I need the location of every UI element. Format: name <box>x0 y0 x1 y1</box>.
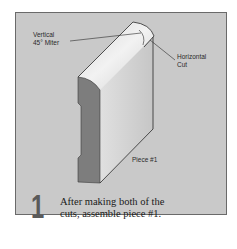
leader-horizontal-cut <box>150 40 175 60</box>
step-instruction: After making both of the cuts, assemble … <box>60 196 220 220</box>
callout-vertical-miter: Vertical 45° Miter <box>33 31 59 46</box>
molding-profile-end <box>78 77 100 183</box>
callout-horizontal-cut: Horizontal Cut <box>177 53 206 68</box>
step-number: 1 <box>31 189 44 223</box>
callout-piece: Piece #1 <box>132 156 157 164</box>
